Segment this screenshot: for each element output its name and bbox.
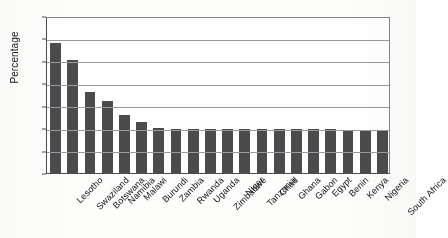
bars-layer	[47, 18, 389, 173]
gridline	[47, 40, 389, 41]
bar	[205, 129, 216, 173]
gridline	[47, 85, 389, 86]
bar	[274, 129, 285, 173]
gridline	[47, 152, 389, 153]
bar	[325, 129, 336, 173]
bar	[308, 129, 319, 173]
bar	[153, 128, 164, 173]
y-tick-mark	[42, 129, 46, 130]
gridline	[47, 130, 389, 131]
x-tick-label-text: South Africa	[406, 175, 448, 217]
x-axis-labels: LesothoSwazilandBotswanaNamibiaMalawiBur…	[46, 175, 390, 238]
x-tick-label: South Africa	[406, 175, 448, 217]
y-tick-mark	[42, 151, 46, 152]
bar	[171, 129, 182, 173]
bar	[119, 115, 130, 173]
bar	[102, 101, 113, 173]
gridline	[47, 107, 389, 108]
bar	[257, 129, 268, 173]
bar	[85, 92, 96, 173]
bar	[188, 129, 199, 173]
bar	[291, 129, 302, 173]
y-tick-mark	[42, 106, 46, 107]
gridline	[47, 62, 389, 63]
plot-area	[46, 17, 390, 174]
y-axis-title: Percentage	[9, 0, 20, 118]
y-tick-mark	[42, 17, 46, 18]
bar	[239, 129, 250, 173]
bar	[222, 129, 233, 173]
y-tick-mark	[42, 84, 46, 85]
y-tick-mark	[42, 39, 46, 40]
y-tick-mark	[42, 61, 46, 62]
bar	[67, 60, 78, 173]
